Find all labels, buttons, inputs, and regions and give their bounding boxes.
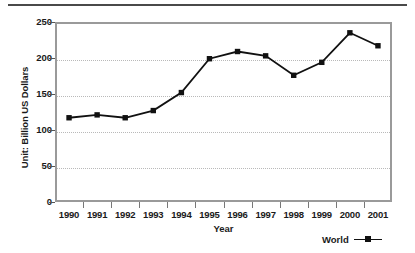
gridline-y-150 (57, 96, 390, 97)
x-tick-mark-9 (308, 202, 309, 208)
x-tick-mark-2 (111, 202, 112, 208)
y-tick-mark-100 (49, 130, 55, 131)
chart-legend: World (322, 232, 382, 246)
legend-square-marker-icon (365, 236, 371, 242)
x-tick-mark-3 (139, 202, 140, 208)
y-tick-mark-250 (49, 22, 55, 23)
x-tick-mark-10 (336, 202, 337, 208)
y-tick-label-200: 200 (12, 53, 52, 63)
x-tick-mark-1 (83, 202, 84, 208)
y-tick-mark-50 (49, 166, 55, 167)
y-tick-mark-0 (49, 202, 55, 203)
gridline-y-100 (57, 132, 390, 133)
y-tick-mark-150 (49, 94, 55, 95)
x-tick-mark-6 (224, 202, 225, 208)
header-divider (8, 4, 407, 6)
chart-figure: Unit: Billion US Dollars 050100150200250… (0, 0, 415, 253)
x-tick-label-2001: 2001 (358, 209, 398, 220)
x-tick-mark-7 (252, 202, 253, 208)
y-tick-label-100: 100 (12, 125, 52, 135)
x-tick-mark-11 (364, 202, 365, 208)
x-tick-mark-4 (167, 202, 168, 208)
y-tick-label-50: 50 (12, 161, 52, 171)
plot-area (55, 22, 392, 202)
y-tick-mark-200 (49, 58, 55, 59)
legend-swatch-world (354, 234, 382, 244)
y-tick-label-250: 250 (12, 17, 52, 27)
gridline-y-50 (57, 168, 390, 169)
x-tick-mark-5 (195, 202, 196, 208)
gridline-y-200 (57, 60, 390, 61)
x-tick-mark-8 (280, 202, 281, 208)
y-tick-label-0: 0 (12, 197, 52, 207)
y-tick-label-150: 150 (12, 89, 52, 99)
gridlines-group (57, 24, 390, 200)
legend-label-world: World (322, 234, 349, 245)
